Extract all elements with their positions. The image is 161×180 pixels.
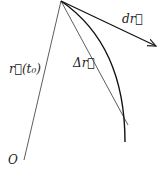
displacement-label: Δr⃗: [72, 56, 95, 70]
differential-label: dr⃗: [122, 12, 143, 26]
origin-label: O: [8, 153, 18, 167]
vector-diagram: O r⃗(t₀) Δr⃗ dr⃗: [0, 0, 161, 180]
trajectory-curve: [61, 1, 125, 142]
position-label: r⃗(t₀): [9, 62, 41, 76]
position-vector-line: [24, 1, 61, 160]
